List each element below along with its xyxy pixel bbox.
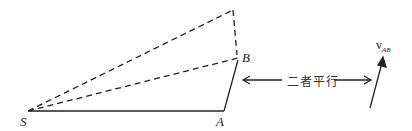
- vector-label: vAB: [376, 38, 391, 54]
- dashed-S-B: [28, 58, 238, 111]
- segment-AB: [224, 60, 238, 111]
- dashed-top-B: [233, 10, 237, 55]
- vector-arrowhead-icon: [378, 57, 386, 67]
- label-B: B: [242, 50, 250, 66]
- parallel-text: 二者平行: [287, 72, 339, 89]
- diagram-canvas: [0, 0, 412, 131]
- label-A: A: [216, 114, 224, 130]
- vector-label-sub: AB: [382, 46, 391, 54]
- label-S: S: [20, 114, 27, 130]
- dashed-S-top: [28, 10, 233, 111]
